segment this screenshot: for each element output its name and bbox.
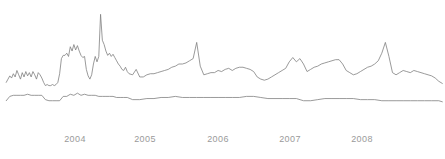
x-tick-label-2007: 2007 bbox=[279, 134, 301, 144]
chart-svg bbox=[0, 0, 445, 130]
x-tick-label-2008: 2008 bbox=[351, 134, 373, 144]
chart-plot-area bbox=[0, 0, 445, 130]
x-tick-label-2004: 2004 bbox=[64, 134, 86, 144]
x-axis: 20042005200620072008 bbox=[0, 130, 445, 159]
x-tick-label-2006: 2006 bbox=[207, 134, 229, 144]
time-series-chart: 20042005200620072008 bbox=[0, 0, 445, 159]
series-line-lower bbox=[6, 93, 442, 102]
x-tick-label-2005: 2005 bbox=[134, 134, 156, 144]
series-line-upper bbox=[6, 14, 442, 85]
